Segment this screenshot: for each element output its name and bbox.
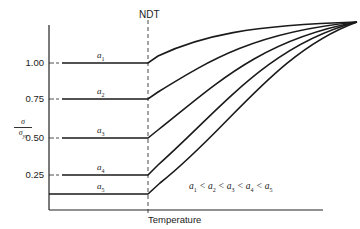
curve-label-a1: a1 [97,50,105,62]
curve-a3 [62,22,357,138]
tick-0-25: 0.25 [4,169,44,180]
y-ticks [49,63,59,175]
tick-0-75: 0.75 [4,93,44,104]
curve-label-a5: a5 [97,181,105,193]
curves [49,22,357,194]
curve-a5 [49,22,357,194]
y-axis-label: σ σys [8,117,38,141]
chart-canvas [0,0,360,229]
x-axis-label: Temperature [148,214,201,225]
curve-label-a3: a3 [97,125,105,137]
curve-label-a4: a4 [97,162,105,174]
tick-1-00: 1.00 [4,57,44,68]
inequality-annotation: a1 < a2 < a3 < a4 < a5 [189,181,272,193]
curve-label-a2: a2 [97,86,105,98]
ndt-label: NDT [139,9,160,20]
